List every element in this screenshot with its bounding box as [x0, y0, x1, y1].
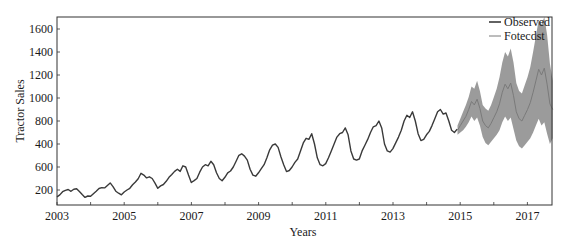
y-tick-label: 1400 — [29, 45, 53, 59]
legend-observed-label: Observed — [504, 15, 550, 29]
y-axis-title: Tractor Sales — [13, 79, 27, 143]
x-axis-title: Years — [290, 225, 317, 239]
x-tick-label: 2009 — [247, 209, 271, 223]
y-tick-label: 1600 — [29, 22, 53, 36]
y-tick-label: 600 — [35, 160, 53, 174]
legend: Observed Fotecdst — [489, 15, 550, 43]
x-tick-label: 2013 — [381, 209, 405, 223]
x-tick-label: 2003 — [45, 209, 69, 223]
x-tick-label: 2005 — [112, 209, 136, 223]
y-tick-label: 400 — [35, 137, 53, 151]
y-tick-label: 1200 — [29, 68, 53, 82]
y-tick-label: 800 — [35, 114, 53, 128]
legend-forecast-label: Fotecdst — [504, 29, 545, 43]
y-tick-label: 200 — [35, 183, 53, 197]
tractor-sales-chart: 20032005200720092011201320152017 1600140… — [0, 0, 569, 246]
x-tick-label: 2015 — [448, 209, 472, 223]
x-tick-label: 2007 — [179, 209, 203, 223]
observed-line — [57, 110, 457, 198]
y-axis: 1600140012001000800400600200 — [29, 22, 60, 197]
x-tick-label: 2011 — [314, 209, 338, 223]
y-tick-label: 1000 — [29, 91, 53, 105]
x-tick-label: 2017 — [515, 209, 539, 223]
